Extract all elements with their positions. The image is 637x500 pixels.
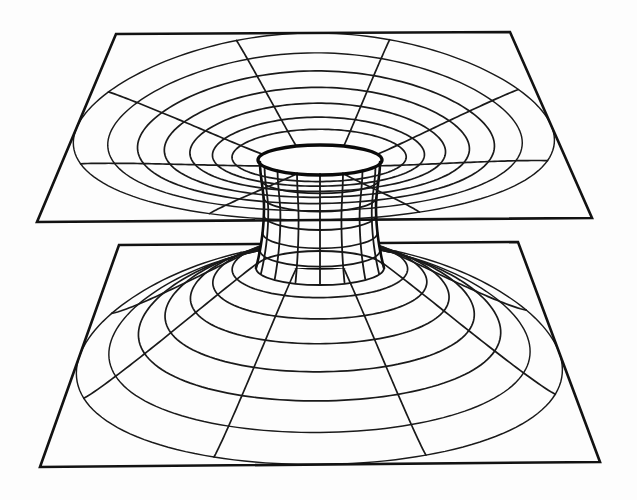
wormhole-figure bbox=[0, 0, 637, 500]
wormhole-throat-tube bbox=[256, 162, 384, 285]
wormhole-diagram-svg bbox=[0, 0, 637, 500]
